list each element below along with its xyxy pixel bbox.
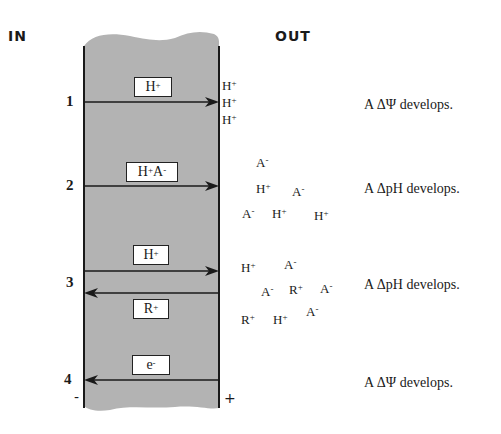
- mechanism-number-3: 3: [66, 274, 74, 291]
- ion: A-: [320, 282, 332, 295]
- mechanism-number-2: 2: [66, 177, 74, 194]
- ion: H+: [222, 79, 236, 92]
- ion: H+: [272, 207, 286, 220]
- ion: H+: [241, 261, 255, 274]
- mechanism-number-4: 4: [64, 371, 72, 388]
- ion: H+: [273, 313, 287, 326]
- ion: A-: [242, 207, 254, 220]
- ion-box-2: H+A-: [126, 162, 178, 182]
- ion-box-3b: R+: [133, 299, 169, 319]
- ion: A-: [292, 185, 304, 198]
- ion: A-: [256, 156, 268, 169]
- ion: H+: [222, 96, 236, 109]
- result-text-2: A ΔpH develops.: [364, 181, 460, 197]
- result-text-1: A ΔΨ develops.: [364, 97, 453, 113]
- ion: A-: [284, 258, 296, 271]
- ion-box-4: e-: [132, 355, 170, 375]
- ion: A-: [261, 285, 273, 298]
- mechanism-number-1: 1: [66, 93, 74, 110]
- ion-box-1: H+: [134, 77, 172, 97]
- ion: H+: [222, 113, 236, 126]
- result-text-3: A ΔpH develops.: [364, 277, 460, 293]
- ion: A-: [306, 305, 318, 318]
- ion: R+: [289, 283, 303, 296]
- ion: H+: [314, 209, 328, 222]
- ion: R+: [241, 313, 255, 326]
- plus-sign: +: [224, 390, 236, 406]
- minus-sign: -: [74, 389, 79, 405]
- result-text-4: A ΔΨ develops.: [364, 375, 453, 391]
- ion: H+: [256, 182, 270, 195]
- ion-box-3a: H+: [133, 245, 169, 265]
